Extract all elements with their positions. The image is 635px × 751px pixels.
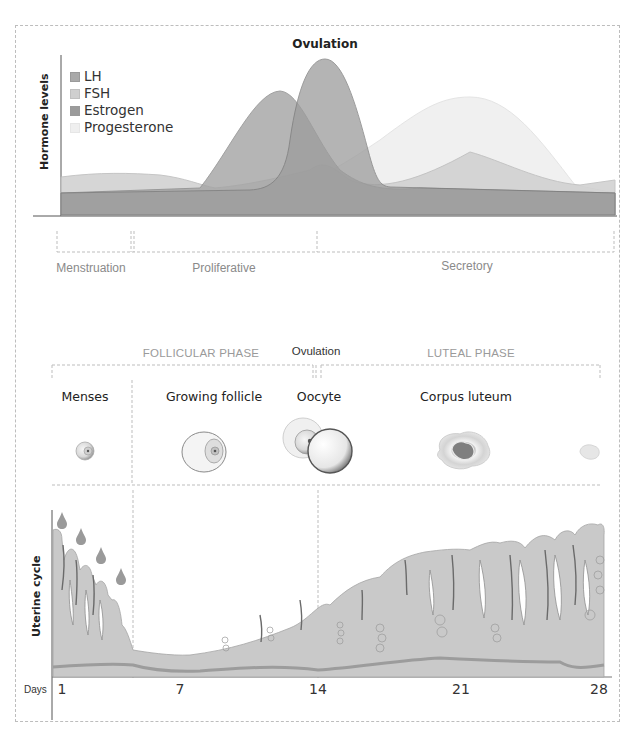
follicular-phase-label: FOLLICULAR PHASE xyxy=(143,347,259,359)
legend-label: Estrogen xyxy=(84,102,144,119)
day-tick-14: 14 xyxy=(309,681,327,697)
growing-follicle-icon xyxy=(182,432,226,472)
day-tick-1: 1 xyxy=(58,681,67,697)
legend-item-fsh: FSH xyxy=(70,85,173,102)
corpus-albicans-icon xyxy=(580,445,599,459)
days-axis-label: Days xyxy=(24,684,47,695)
stage-oocyte: Oocyte xyxy=(297,389,341,404)
hormone-legend: LH FSH Estrogen Progesterone xyxy=(70,68,173,136)
ovulation-marker-label: Ovulation xyxy=(292,345,341,357)
fsh-swatch-icon xyxy=(70,89,80,99)
uterine-cycle-label: Uterine cycle xyxy=(30,556,43,637)
day-tick-7: 7 xyxy=(176,681,185,697)
uterine-chart xyxy=(52,510,612,720)
lh-swatch-icon xyxy=(70,72,80,82)
day-tick-28: 28 xyxy=(590,681,608,697)
legend-item-lh: LH xyxy=(70,68,173,85)
phase-proliferative: Proliferative xyxy=(192,261,255,275)
uterine-phase-brackets xyxy=(57,231,614,252)
legend-label: FSH xyxy=(84,85,110,102)
day-tick-21: 21 xyxy=(452,681,470,697)
oocyte-icon xyxy=(283,418,352,473)
phase-menstruation: Menstruation xyxy=(56,261,125,275)
follicle-menses-icon xyxy=(76,442,94,460)
hormone-levels-label: Hormone levels xyxy=(38,73,51,170)
stage-corpus-luteum: Corpus luteum xyxy=(420,389,512,404)
corpus-luteum-icon xyxy=(438,432,490,469)
stage-growing-follicle: Growing follicle xyxy=(166,389,262,404)
stage-menses: Menses xyxy=(61,389,108,404)
legend-label: Progesterone xyxy=(84,119,173,136)
estrogen-swatch-icon xyxy=(70,106,80,116)
legend-label: LH xyxy=(84,68,102,85)
progesterone-swatch-icon xyxy=(70,123,80,133)
legend-item-progesterone: Progesterone xyxy=(70,119,173,136)
legend-item-estrogen: Estrogen xyxy=(70,102,173,119)
phase-secretory: Secretory xyxy=(441,259,492,273)
luteal-phase-label: LUTEAL PHASE xyxy=(427,347,515,359)
ovulation-title: Ovulation xyxy=(292,37,357,51)
